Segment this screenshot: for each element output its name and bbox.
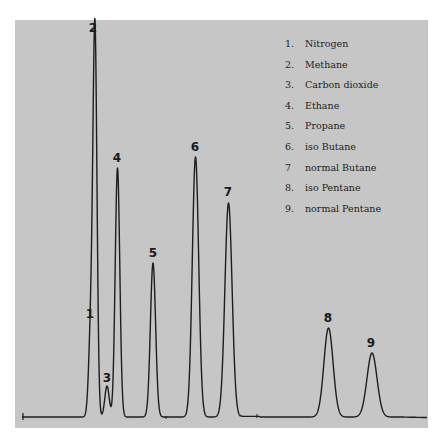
legend-item-label: normal Pentane <box>305 203 381 214</box>
legend-item-number: 5. <box>285 120 305 131</box>
legend-item-number: 9. <box>285 203 305 214</box>
peak-label-5: 5 <box>149 247 157 259</box>
peak-label-6: 6 <box>191 141 199 153</box>
legend-item-label: Carbon dioxide <box>305 79 378 90</box>
peak-label-8: 8 <box>324 312 332 324</box>
peak-label-4: 4 <box>113 152 121 164</box>
peak-label-9: 9 <box>367 337 375 349</box>
legend-item-label: iso Butane <box>305 141 356 152</box>
legend-item-label: iso Pentane <box>305 182 361 193</box>
legend-item-number: 7 <box>285 162 305 173</box>
legend-item-number: 3. <box>285 79 305 90</box>
legend-item-number: 2. <box>285 59 305 70</box>
legend-item-label: normal Butane <box>305 162 376 173</box>
legend-item-label: Ethane <box>305 100 339 111</box>
legend-item-number: 4. <box>285 100 305 111</box>
legend-item: 6.iso Butane <box>285 141 381 162</box>
legend-item: 9.normal Pentane <box>285 203 381 224</box>
legend-item-label: Methane <box>305 59 348 70</box>
legend-item: 1.Nitrogen <box>285 38 381 59</box>
legend-item-number: 1. <box>285 38 305 49</box>
legend-item: 3.Carbon dioxide <box>285 79 381 100</box>
legend-item-label: Propane <box>305 120 345 131</box>
legend-item-number: 6. <box>285 141 305 152</box>
peak-label-1: 1 <box>86 308 94 320</box>
legend-item: 5.Propane <box>285 120 381 141</box>
peak-label-2: 2 <box>89 22 97 34</box>
peak-label-3: 3 <box>103 372 111 384</box>
legend-item-number: 8. <box>285 182 305 193</box>
legend-item: 4.Ethane <box>285 100 381 121</box>
legend-item: 2.Methane <box>285 59 381 80</box>
peak-label-7: 7 <box>224 186 232 198</box>
legend-item-label: Nitrogen <box>305 38 348 49</box>
legend-item: 7normal Butane <box>285 162 381 183</box>
legend-item: 8.iso Pentane <box>285 182 381 203</box>
legend: 1.Nitrogen2.Methane3.Carbon dioxide4.Eth… <box>285 38 381 223</box>
